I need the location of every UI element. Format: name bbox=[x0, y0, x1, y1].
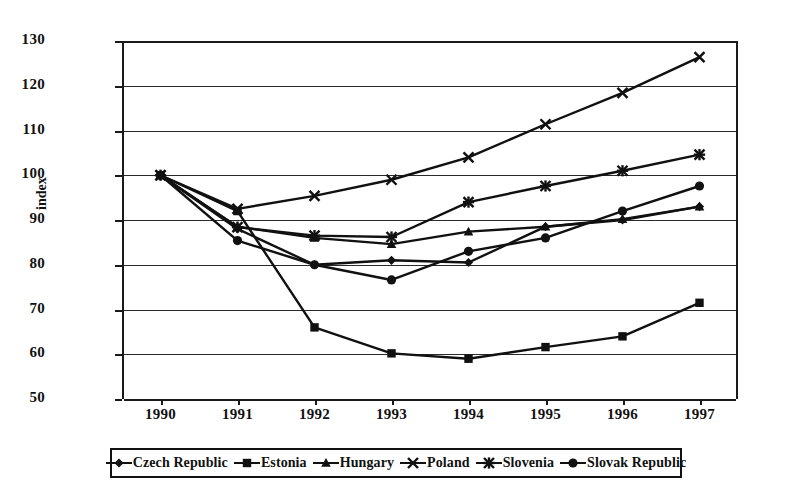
data-point-marker-asterisk bbox=[483, 457, 494, 468]
gridline-120 bbox=[124, 86, 736, 87]
y-tick-mark-110 bbox=[115, 131, 122, 133]
x-tick-mark-1993 bbox=[392, 399, 394, 405]
gridline-70 bbox=[124, 310, 736, 311]
legend-label: Hungary bbox=[340, 455, 394, 471]
legend-item-czech-republic[interactable]: Czech Republic bbox=[103, 455, 231, 471]
x-tick-mark-1995 bbox=[546, 399, 548, 405]
chart-root: index 5060708090100110120130 19901991199… bbox=[0, 0, 789, 502]
y-tick-label-90: 90 bbox=[0, 210, 45, 227]
legend-item-slovenia[interactable]: Slovenia bbox=[473, 455, 557, 471]
x-tick-label-1994: 1994 bbox=[434, 406, 504, 423]
x-tick-label-1991: 1991 bbox=[203, 406, 273, 423]
y-tick-mark-130 bbox=[115, 41, 122, 43]
y-tick-mark-100 bbox=[115, 175, 122, 177]
x-tick-label-1992: 1992 bbox=[280, 406, 350, 423]
x-tick-mark-1996 bbox=[623, 399, 625, 405]
gridline-90 bbox=[124, 220, 736, 221]
y-tick-label-70: 70 bbox=[0, 300, 45, 317]
legend-label: Poland bbox=[427, 455, 470, 471]
legend-item-estonia[interactable]: Estonia bbox=[231, 455, 310, 471]
y-tick-label-100: 100 bbox=[0, 165, 45, 182]
legend-marker-triangle-icon bbox=[313, 456, 339, 470]
y-tick-mark-120 bbox=[115, 86, 122, 88]
x-tick-mark-1997 bbox=[700, 399, 702, 405]
gridline-50 bbox=[124, 399, 736, 401]
y-tick-label-80: 80 bbox=[0, 255, 45, 272]
x-tick-mark-1991 bbox=[238, 399, 240, 405]
data-point-marker-triangle bbox=[321, 458, 331, 467]
data-point-marker-square bbox=[243, 459, 251, 467]
x-tick-label-1996: 1996 bbox=[588, 406, 658, 423]
gridline-100 bbox=[124, 175, 736, 176]
legend-marker-square-icon bbox=[234, 456, 260, 470]
data-point-marker-diamond bbox=[114, 458, 123, 467]
legend-marker-circle-icon bbox=[560, 456, 586, 470]
y-tick-mark-90 bbox=[115, 220, 122, 222]
chart-legend: Czech RepublicEstoniaHungaryPolandSloven… bbox=[110, 448, 682, 478]
y-tick-mark-60 bbox=[115, 354, 122, 356]
legend-label: Czech Republic bbox=[133, 455, 228, 471]
legend-label: Slovak Republic bbox=[587, 455, 686, 471]
gridline-130 bbox=[124, 41, 736, 43]
gridline-80 bbox=[124, 265, 736, 266]
x-tick-label-1990: 1990 bbox=[126, 406, 196, 423]
y-tick-label-50: 50 bbox=[0, 389, 45, 406]
gridline-110 bbox=[124, 131, 736, 132]
legend-marker-x-icon bbox=[400, 456, 426, 470]
x-tick-label-1995: 1995 bbox=[511, 406, 581, 423]
y-tick-mark-70 bbox=[115, 310, 122, 312]
legend-marker-asterisk-icon bbox=[476, 456, 502, 470]
x-tick-mark-1990 bbox=[161, 399, 163, 405]
x-tick-mark-1992 bbox=[315, 399, 317, 405]
data-point-marker-x bbox=[408, 458, 418, 468]
y-tick-label-130: 130 bbox=[0, 31, 45, 48]
gridline-60 bbox=[124, 354, 736, 355]
y-tick-label-110: 110 bbox=[0, 121, 45, 138]
y-tick-mark-50 bbox=[115, 399, 122, 401]
plot-area bbox=[122, 41, 738, 399]
y-tick-label-60: 60 bbox=[0, 344, 45, 361]
x-tick-label-1997: 1997 bbox=[665, 406, 735, 423]
legend-label: Slovenia bbox=[503, 455, 554, 471]
data-point-marker-circle bbox=[569, 458, 578, 467]
legend-item-hungary[interactable]: Hungary bbox=[310, 455, 397, 471]
x-tick-label-1993: 1993 bbox=[357, 406, 427, 423]
x-tick-mark-1994 bbox=[469, 399, 471, 405]
y-tick-mark-80 bbox=[115, 265, 122, 267]
y-tick-label-120: 120 bbox=[0, 76, 45, 93]
legend-item-poland[interactable]: Poland bbox=[397, 455, 473, 471]
legend-item-slovak-republic[interactable]: Slovak Republic bbox=[557, 455, 689, 471]
legend-label: Estonia bbox=[261, 455, 307, 471]
legend-marker-diamond-icon bbox=[106, 456, 132, 470]
